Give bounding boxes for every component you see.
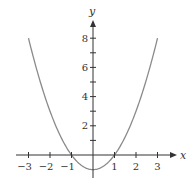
y-ticks: 2468 xyxy=(82,33,96,141)
y-tick-label: 6 xyxy=(82,62,88,73)
y-axis-arrow-icon xyxy=(90,20,96,27)
x-tick-label: 1 xyxy=(111,161,117,172)
x-axis-arrow-icon xyxy=(170,152,177,158)
y-tick-label: 4 xyxy=(82,91,88,102)
y-axis xyxy=(90,20,96,178)
x-tick-label: −2 xyxy=(39,161,54,172)
parabola-chart: −3−2−1123 2468 x y xyxy=(0,0,193,185)
y-tick-label: 8 xyxy=(82,33,88,44)
x-tick-label: −1 xyxy=(60,161,75,172)
x-tick-label: 2 xyxy=(133,161,139,172)
x-tick-label: 3 xyxy=(154,161,160,172)
x-axis-label: x xyxy=(180,149,187,162)
y-axis-label: y xyxy=(88,5,96,18)
y-tick-label: 2 xyxy=(82,120,88,131)
x-axis xyxy=(16,152,177,158)
x-tick-label: −3 xyxy=(17,161,32,172)
